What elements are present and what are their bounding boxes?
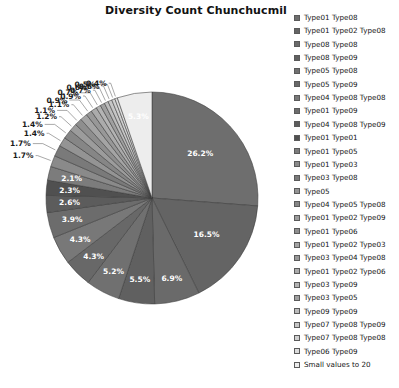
slice-value-label: 26.2% <box>187 149 214 158</box>
leader-line <box>47 133 61 140</box>
legend-item[interactable]: Type03 Type09 <box>294 278 399 291</box>
legend-item[interactable]: Type03 Type04 Type08 <box>294 251 399 264</box>
legend-item-label: Type01 Type02 Type06 <box>304 268 386 275</box>
pie-svg: 26.2%16.5%6.9%5.5%5.2%4.3%4.3%3.9%2.6%2.… <box>0 0 290 388</box>
legend-item[interactable]: Type04 Type08 Type09 <box>294 118 399 131</box>
legend-swatch-icon <box>294 68 300 74</box>
legend-item-label: Small values to 20 <box>304 361 371 368</box>
leader-line <box>102 86 110 99</box>
legend-item-label: Type04 Type08 Type09 <box>304 121 386 128</box>
leader-line <box>93 90 102 102</box>
legend-item[interactable]: Type04 Type05 Type08 <box>294 198 399 211</box>
legend-item[interactable]: Type09 Type09 <box>294 305 399 318</box>
legend-item-label: Type01 Type01 <box>304 134 358 141</box>
legend-item[interactable]: Type01 Type05 <box>294 144 399 157</box>
legend-item[interactable]: Type05 Type09 <box>294 78 399 91</box>
slice-value-label: 1.7% <box>13 151 34 160</box>
legend-item[interactable]: Type03 Type05 <box>294 291 399 304</box>
legend-swatch-icon <box>294 322 300 328</box>
legend-item[interactable]: Type08 Type09 <box>294 51 399 64</box>
legend-swatch-icon <box>294 295 300 301</box>
legend-swatch-icon <box>294 108 300 114</box>
legend-item[interactable]: Type06 Type09 <box>294 345 399 358</box>
legend-item-label: Type01 Type03 <box>304 161 358 168</box>
legend-swatch-icon <box>294 228 300 234</box>
pie-plot-area: 26.2%16.5%6.9%5.5%5.2%4.3%4.3%3.9%2.6%2.… <box>0 0 290 388</box>
leader-line <box>69 100 87 111</box>
legend-item[interactable]: Type01 Type08 <box>294 11 399 24</box>
slice-value-label: 2.1% <box>61 174 82 183</box>
slice-value-label: 0.4% <box>86 79 107 88</box>
legend-item[interactable]: Small values to 20 <box>294 358 399 371</box>
legend-item-label: Type04 Type08 Type08 <box>304 94 386 101</box>
legend-item-label: Type03 Type05 <box>304 294 358 301</box>
legend-item[interactable]: Type01 Type03 <box>294 158 399 171</box>
legend-item-label: Type01 Type02 Type09 <box>304 214 386 221</box>
legend-item-label: Type05 Type08 <box>304 67 358 74</box>
legend-item[interactable]: Type01 Type06 <box>294 225 399 238</box>
legend-swatch-icon <box>294 148 300 154</box>
legend-item[interactable]: Type01 Type09 <box>294 104 399 117</box>
legend-swatch-icon <box>294 95 300 101</box>
legend-item[interactable]: Type03 Type08 <box>294 171 399 184</box>
slice-value-label: 5.3% <box>128 112 149 121</box>
legend-item-label: Type05 <box>304 188 330 195</box>
legend-item[interactable]: Type07 Type08 Type08 <box>294 331 399 344</box>
legend-item-label: Type01 Type06 <box>304 228 358 235</box>
legend-item[interactable]: Type01 Type02 Type08 <box>294 24 399 37</box>
legend-item[interactable]: Type01 Type02 Type03 <box>294 238 399 251</box>
legend-item[interactable]: Type07 Type08 Type09 <box>294 318 399 331</box>
legend-item-label: Type09 Type09 <box>304 308 358 315</box>
legend-item[interactable]: Type01 Type02 Type06 <box>294 265 399 278</box>
legend-swatch-icon <box>294 282 300 288</box>
legend-item[interactable]: Type01 Type01 <box>294 131 399 144</box>
legend-swatch-icon <box>294 135 300 141</box>
leader-line <box>36 156 51 161</box>
legend-item[interactable]: Type05 Type08 <box>294 64 399 77</box>
leader-line <box>59 117 71 126</box>
slice-value-label: 5.2% <box>103 267 124 276</box>
slice-value-label: 2.6% <box>59 198 80 207</box>
slice-value-label: 6.9% <box>161 274 182 283</box>
legend-swatch-icon <box>294 201 300 207</box>
legend-item[interactable]: Type08 Type08 <box>294 38 399 51</box>
legend-item[interactable]: Type04 Type08 Type08 <box>294 91 399 104</box>
legend-swatch-icon <box>294 215 300 221</box>
leader-line <box>57 110 77 120</box>
legend-item-label: Type01 Type08 <box>304 14 358 21</box>
legend-item-label: Type03 Type04 Type08 <box>304 254 386 261</box>
leader-line <box>33 144 56 150</box>
legend-swatch-icon <box>294 41 300 47</box>
legend-swatch-icon <box>294 81 300 87</box>
legend-item[interactable]: Type05 <box>294 184 399 197</box>
legend-swatch-icon <box>294 188 300 194</box>
legend-item-label: Type01 Type02 Type08 <box>304 27 386 34</box>
legend-item-label: Type04 Type05 Type08 <box>304 201 386 208</box>
slice-value-label: 1.7% <box>10 139 31 148</box>
legend-item-label: Type08 Type08 <box>304 41 358 48</box>
legend-item-label: Type01 Type09 <box>304 107 358 114</box>
slice-value-label: 1.4% <box>22 120 43 129</box>
legend-swatch-icon <box>294 348 300 354</box>
legend-item-label: Type07 Type08 Type08 <box>304 334 386 341</box>
legend-item-label: Type07 Type08 Type09 <box>304 321 386 328</box>
legend-swatch-icon <box>294 161 300 167</box>
legend-item-label: Type08 Type09 <box>304 54 358 61</box>
slice-value-label: 2.3% <box>59 186 80 195</box>
legend-swatch-icon <box>294 121 300 127</box>
legend-item[interactable]: Type01 Type02 Type09 <box>294 211 399 224</box>
slice-value-label: 3.9% <box>62 215 83 224</box>
legend-swatch-icon <box>294 268 300 274</box>
legend-swatch-icon <box>294 28 300 34</box>
legend-item-label: Type03 Type08 <box>304 174 358 181</box>
legend-swatch-icon <box>294 175 300 181</box>
legend-swatch-icon <box>294 308 300 314</box>
slice-value-label: 4.3% <box>83 252 104 261</box>
legend-swatch-icon <box>294 255 300 261</box>
pie-chart: Diversity Count Chunchucmil 26.2%16.5%6.… <box>0 0 399 388</box>
legend-swatch-icon <box>294 15 300 21</box>
slice-value-label: 16.5% <box>193 230 220 239</box>
legend-swatch-icon <box>294 55 300 61</box>
chart-legend: Type01 Type08Type01 Type02 Type08Type08 … <box>294 11 399 371</box>
legend-swatch-icon <box>294 335 300 341</box>
